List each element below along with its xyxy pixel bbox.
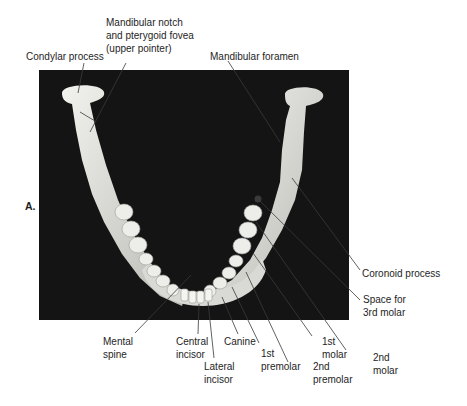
- label-1st-premolar: 1st premolar: [261, 347, 300, 373]
- label-coronoid-process: Coronoid process: [362, 267, 440, 280]
- leader-canine: [222, 297, 238, 334]
- leader-central-incisor: [198, 304, 199, 334]
- label-canine: Canine: [224, 335, 256, 348]
- leader-lateral-incisor: [208, 302, 214, 358]
- label-central-incisor: Central incisor: [176, 335, 208, 361]
- label-space-3rd-molar: Space for 3rd molar: [363, 293, 406, 319]
- leader-1st-molar: [253, 253, 312, 336]
- label-2nd-premolar: 2nd premolar: [313, 360, 352, 386]
- left-ramus-shape: [62, 85, 185, 306]
- label-mental-spine: Mental spine: [103, 335, 133, 361]
- leader-coronoid-process: [292, 178, 360, 270]
- label-mandibular-notch: Mandibular notch and pterygoid fovea (up…: [106, 16, 194, 55]
- label-2nd-molar: 2nd molar: [373, 351, 398, 377]
- mandible-figure: A. Condylar process Mandibular notch and…: [0, 0, 467, 406]
- label-mandibular-foramen: Mandibular foramen: [210, 50, 299, 63]
- panel-label: A.: [25, 200, 36, 212]
- leader-mandibular-foramen: [228, 61, 280, 142]
- label-condylar-process: Condylar process: [26, 50, 104, 63]
- label-1st-molar: 1st molar: [322, 335, 347, 361]
- label-lateral-incisor: Lateral incisor: [204, 360, 235, 386]
